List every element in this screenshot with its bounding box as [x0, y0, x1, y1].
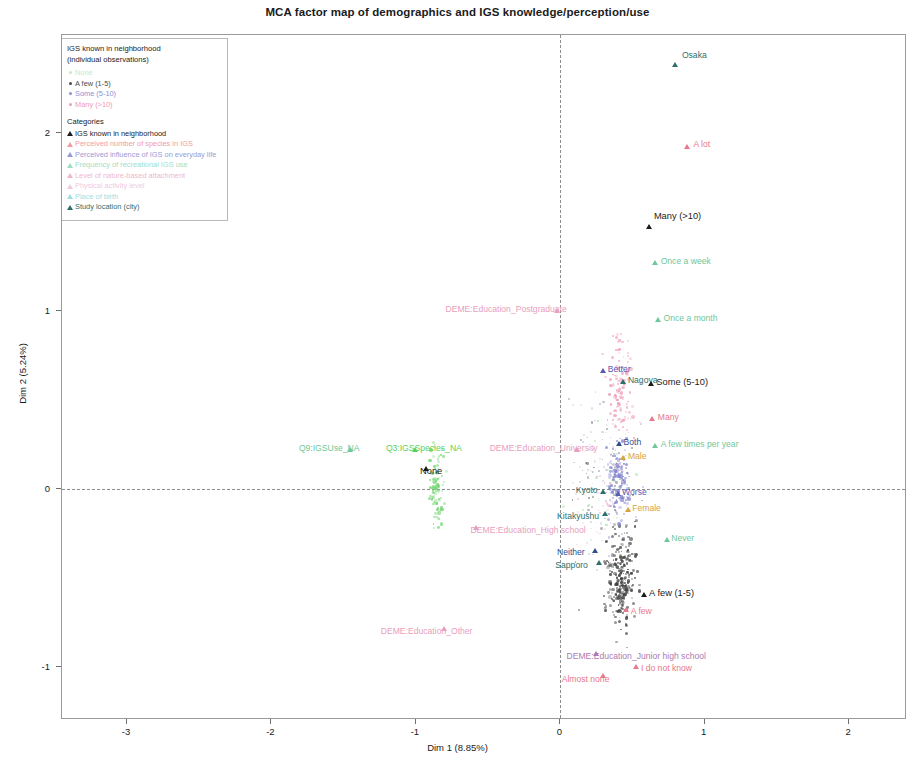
observation-point [617, 418, 620, 421]
observation-point [435, 485, 438, 488]
observation-point [615, 558, 617, 560]
observation-point [620, 519, 623, 522]
observation-point [631, 415, 634, 418]
observation-point [440, 454, 442, 456]
observation-point [433, 527, 435, 529]
category-label: Once a week [661, 257, 711, 266]
observation-point [605, 500, 607, 502]
observation-point [607, 504, 609, 506]
category-marker [620, 455, 626, 460]
observation-point [628, 576, 630, 578]
observation-point [618, 497, 620, 499]
observation-point [578, 609, 580, 611]
observation-point [625, 616, 628, 619]
observation-point [619, 409, 622, 412]
observation-point [605, 524, 607, 526]
observation-point [603, 595, 605, 597]
category-label: Once a month [664, 314, 718, 323]
observation-point [625, 623, 628, 626]
observation-point [621, 533, 623, 535]
observation-point [615, 500, 618, 503]
observation-point [626, 532, 628, 534]
observation-point [618, 620, 621, 623]
observation-point [612, 446, 614, 448]
category-marker [602, 511, 608, 516]
observation-point [615, 551, 617, 553]
observation-point [586, 437, 588, 439]
observation-point [604, 609, 607, 612]
observation-point [586, 542, 588, 544]
observation-point [622, 470, 624, 472]
category-label: Q3:IGSSpecies_NA [386, 444, 462, 453]
observation-point [636, 570, 639, 573]
observation-point [614, 621, 617, 624]
category-marker [633, 664, 639, 669]
observation-point [625, 467, 627, 469]
observation-point [619, 617, 621, 619]
observation-point [612, 470, 614, 472]
observation-point [625, 526, 626, 527]
mca-scatter-plot: OsakaA lotMany (>10)Once a weekOnce a mo… [61, 34, 906, 719]
observation-point [626, 472, 628, 474]
observation-point [568, 398, 570, 400]
observation-point [621, 551, 623, 553]
category-label: DEME:Education_University [490, 444, 598, 453]
observation-point [607, 469, 609, 471]
observation-point [604, 376, 607, 379]
legend-item-label: Many (>10) [75, 100, 113, 111]
observation-point [601, 431, 603, 433]
observation-point [608, 487, 610, 489]
observation-point [437, 511, 440, 514]
legend-subtitle: (individual observations) [67, 55, 221, 66]
legend-item-label: IGS known in neighborhood [75, 129, 166, 140]
legend: IGS known in neighborhood (individual ob… [61, 38, 228, 221]
x-tick-label: 0 [557, 726, 562, 737]
category-label: A few (1-5) [649, 589, 694, 598]
observation-point [599, 458, 601, 460]
observation-point [613, 414, 616, 417]
observation-point [608, 580, 611, 583]
category-marker [620, 379, 626, 384]
legend-individual-item: Some (5-10) [67, 89, 221, 100]
observation-point [627, 361, 629, 363]
observation-point [588, 504, 590, 506]
observation-point [614, 534, 616, 536]
x-tick-label: 1 [701, 726, 706, 737]
observation-point [590, 539, 592, 541]
category-label: Osaka [682, 51, 707, 60]
observation-point [577, 498, 579, 500]
observation-point [618, 594, 621, 597]
observation-point [628, 559, 631, 562]
legend-dot-icon [69, 103, 72, 106]
observation-point [628, 545, 630, 547]
observation-point [428, 459, 431, 462]
legend-triangle-icon [67, 205, 73, 210]
category-marker [596, 560, 602, 565]
category-marker [664, 537, 670, 542]
observation-point [596, 531, 598, 533]
observation-point [627, 579, 630, 582]
observation-point [610, 500, 612, 502]
observation-point [609, 573, 611, 575]
observation-point [440, 508, 443, 511]
observation-point [615, 597, 618, 600]
observation-point [615, 336, 618, 339]
observation-point [594, 461, 596, 463]
observation-point [621, 396, 624, 399]
x-tick [848, 719, 849, 724]
observation-point [634, 577, 636, 579]
observation-point [434, 479, 437, 482]
observation-point [622, 612, 624, 614]
observation-point [626, 614, 628, 616]
observation-point [608, 555, 610, 557]
legend-individual-item: Many (>10) [67, 100, 221, 111]
category-marker [600, 368, 606, 373]
observation-point [611, 592, 613, 594]
observation-point [614, 528, 617, 531]
observation-point [587, 476, 589, 478]
observation-point [625, 463, 628, 466]
observation-point [576, 544, 577, 545]
observation-point [621, 419, 624, 422]
observation-point [625, 433, 626, 434]
observation-point [614, 469, 617, 472]
